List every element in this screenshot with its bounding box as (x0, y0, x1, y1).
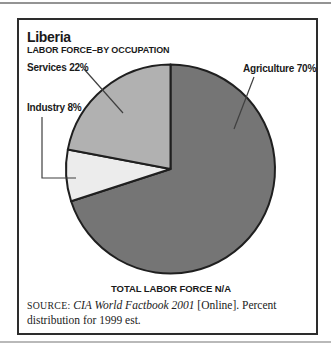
source-text-line2: for 1999 est. (83, 314, 141, 326)
source-label: SOURCE: (27, 300, 70, 311)
total-labor-force-note: TOTAL LABOR FORCE N/A (21, 283, 321, 294)
source-work-title: CIA World Factbook 2001 (73, 299, 194, 311)
pie-chart (0, 0, 331, 349)
agriculture-slice-label: Agriculture 70% (243, 63, 316, 74)
services-slice-label: Services 22% (27, 62, 89, 73)
pie-slice-services (68, 65, 171, 170)
pie-slices (66, 65, 275, 274)
scan-rule-bottom (0, 341, 331, 343)
source-note: SOURCE: CIA World Factbook 2001 [Online]… (27, 298, 311, 327)
industry-slice-label: Industry 8% (27, 102, 81, 113)
